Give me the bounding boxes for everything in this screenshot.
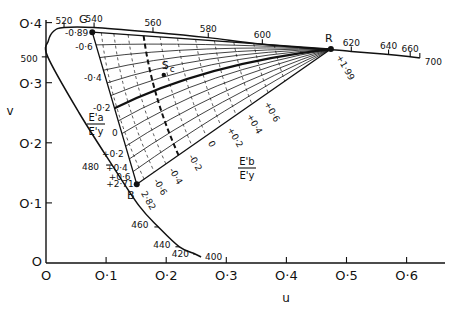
y-tick-label: O·1 — [19, 196, 42, 211]
x-tick-label: O·3 — [215, 268, 238, 283]
wavelength-label: 540 — [85, 14, 102, 24]
br-side-label: +0·6 — [262, 100, 282, 124]
br-side-label: +0·4 — [245, 112, 265, 136]
white-point-subscript: c — [170, 64, 175, 74]
gb-side-label: +0·2 — [102, 149, 124, 159]
wavelength-label: 620 — [343, 38, 360, 48]
x-tick-label: O·2 — [155, 268, 178, 283]
ratio-label-a-denominator: E'y — [89, 126, 104, 137]
gb-side-label: +0·6 — [109, 172, 131, 182]
x-axis-title: u — [282, 291, 290, 305]
primary-label-g: G — [79, 13, 88, 26]
cie-uv-diagram: OO·1O·2O·3O·4O·5O·6OO·1O·2O·3O·4 4004204… — [0, 0, 453, 312]
gb-side-label: -0·6 — [75, 42, 93, 52]
x-tick-label: O·6 — [395, 268, 418, 283]
grid-curve-b — [196, 40, 221, 126]
ratio-label-a-numerator: E'a — [88, 112, 103, 123]
grid-curve-a — [118, 49, 331, 121]
ratio-label-b-denominator: E'y — [240, 170, 255, 181]
grid-curve-b — [178, 38, 207, 136]
grid-curve-b — [160, 37, 192, 146]
wavelength-label: 580 — [200, 24, 217, 34]
wavelength-label: 520 — [55, 16, 72, 26]
annotations: GRBSc-0·89+1·99+2·712·82-0·6-0·4-0·20+0·… — [65, 13, 357, 211]
white-point — [162, 73, 166, 77]
primary-point-g — [89, 29, 95, 35]
wavelength-label: 600 — [254, 30, 271, 40]
wavelength-label: 560 — [144, 18, 161, 28]
wavelength-label: 420 — [172, 249, 189, 259]
wavelength-label: 660 — [402, 44, 419, 54]
coordinate-grid — [96, 33, 331, 179]
white-point-label: S — [162, 59, 169, 72]
y-tick-label: O·4 — [19, 16, 42, 31]
wavelength-label: 480 — [82, 162, 99, 172]
gb-side-label: 0 — [112, 128, 118, 138]
x-tick-label: O·1 — [95, 268, 118, 283]
grid-curve-a — [129, 49, 331, 159]
primary-point-b — [134, 181, 140, 187]
wavelength-label: 400 — [205, 252, 222, 262]
br-side-label: 0 — [206, 139, 218, 149]
ratio-label-b-numerator: E'b — [239, 156, 254, 167]
wavelength-label: 640 — [380, 41, 397, 51]
wavelength-label: 500 — [21, 54, 38, 64]
value-label-r: +1·99 — [334, 53, 357, 82]
y-tick-label: O — [32, 254, 42, 269]
br-side-label: -0·6 — [152, 177, 170, 197]
y-axis-title: v — [6, 104, 13, 118]
x-tick-label: O·4 — [275, 268, 298, 283]
br-side-label: -0·4 — [167, 166, 185, 186]
gb-side-label: -0·4 — [84, 73, 102, 83]
wavelength-label: 440 — [153, 240, 170, 250]
x-tick-label: O — [41, 268, 51, 283]
value-label-g: -0·89 — [65, 28, 89, 38]
y-tick-label: O·3 — [19, 76, 42, 91]
primary-label-b: B — [127, 189, 135, 202]
br-side-label: +0·2 — [225, 125, 245, 149]
wavelength-label: 460 — [131, 220, 148, 230]
primary-label-r: R — [325, 32, 333, 45]
y-tick-label: O·2 — [19, 136, 42, 151]
grid-curve-b — [274, 45, 285, 81]
primary-point-r — [328, 46, 334, 52]
x-tick-label: O·5 — [335, 268, 358, 283]
br-side-label: -0·2 — [187, 152, 204, 172]
wavelength-label: 700 — [425, 57, 442, 67]
